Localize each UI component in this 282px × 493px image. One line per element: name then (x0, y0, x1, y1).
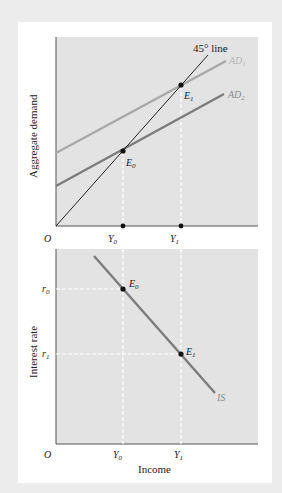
label-45-line: 45° line (193, 42, 228, 54)
top-point-e1 (178, 82, 183, 87)
label-top-y1: Y1 (170, 233, 179, 246)
top-tick-y0 (121, 224, 126, 229)
label-is: IS (216, 392, 225, 403)
top-tick-y1 (179, 224, 184, 229)
label-r0: r0 (42, 283, 50, 296)
label-r1: r1 (42, 348, 49, 361)
label-income: Income (138, 463, 171, 475)
bottom-point-e0 (120, 286, 125, 291)
top-chart: 45° line AD1 AD2 E0 E1 O Y0 Y1 Aggregate… (27, 37, 258, 246)
label-interest-rate: Interest rate (27, 326, 39, 378)
label-top-y0: Y0 (108, 233, 118, 246)
bottom-point-e1 (178, 351, 183, 356)
label-aggregate-demand: Aggregate demand (27, 94, 39, 178)
figure: 45° line AD1 AD2 E0 E1 O Y0 Y1 Aggregate… (0, 0, 282, 493)
label-bottom-origin: O (44, 449, 51, 460)
top-point-e0 (120, 148, 125, 153)
bottom-chart: E0 E1 IS r0 r1 O Y0 Y1 Income Interest r… (27, 249, 258, 475)
label-bottom-y0: Y0 (113, 449, 123, 462)
bottom-plot-area (56, 249, 258, 444)
label-top-origin: O (44, 233, 51, 244)
label-bottom-y1: Y1 (174, 449, 183, 462)
